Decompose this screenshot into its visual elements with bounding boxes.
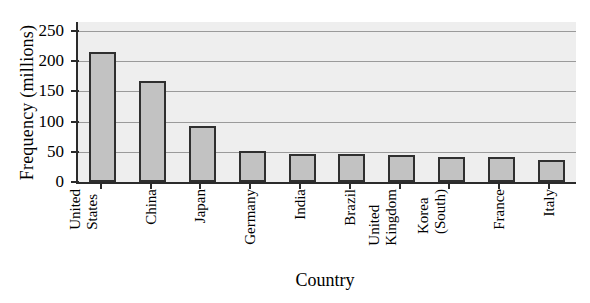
x-category-label-line: Japan	[193, 189, 208, 223]
x-category-label: India	[293, 189, 308, 220]
x-category-label: UnitedStates	[67, 189, 101, 230]
bar	[388, 155, 415, 182]
x-label-slot: Germany	[225, 189, 275, 267]
x-category-label: Germany	[243, 189, 258, 245]
bar	[538, 160, 565, 182]
bar-slot	[178, 22, 228, 182]
x-category-label-line: France	[492, 189, 507, 230]
y-tick-label: 100	[22, 113, 64, 130]
y-tick-label: 50	[22, 143, 64, 160]
y-axis-tick-labels: 050100150200250	[20, 0, 64, 303]
bar-slot	[377, 22, 427, 182]
x-label-slot: India	[275, 189, 325, 267]
bar-slot	[277, 22, 327, 182]
y-tick-label: 150	[22, 82, 64, 99]
x-label-slot: France	[474, 189, 524, 267]
bar	[89, 52, 116, 182]
y-tick-label: 250	[22, 22, 64, 39]
bar-slot	[327, 22, 377, 182]
x-category-label: Korea(South)	[415, 189, 449, 234]
x-category-label-line: United	[366, 189, 383, 246]
x-label-slot: Japan	[176, 189, 226, 267]
x-category-label: UnitedKingdom	[366, 189, 400, 246]
bar	[438, 157, 465, 182]
x-axis-title: Country	[76, 270, 574, 291]
plot-area	[76, 22, 576, 184]
x-category-label-line: Germany	[243, 189, 258, 245]
x-label-slot: UnitedStates	[76, 189, 126, 267]
x-category-label-line: Kingdom	[383, 189, 400, 246]
x-category-label-line: Italy	[542, 189, 557, 217]
x-category-label-line: United	[67, 189, 84, 230]
bar-chart: Frequency (millions) 050100150200250 Uni…	[0, 0, 590, 303]
x-label-slot: Korea(South)	[425, 189, 475, 267]
x-axis-category-labels: UnitedStatesChinaJapanGermanyIndiaBrazil…	[76, 189, 574, 267]
y-tick-label: 0	[22, 173, 64, 190]
x-category-label: France	[492, 189, 507, 230]
x-category-label-line: Brazil	[342, 189, 357, 226]
x-category-label-line: India	[293, 189, 308, 220]
y-tick-label: 200	[22, 52, 64, 69]
x-label-slot: Italy	[524, 189, 574, 267]
bar-slot	[78, 22, 128, 182]
x-category-label: Italy	[542, 189, 557, 217]
x-category-label-line: (South)	[432, 189, 449, 234]
x-category-label-line: China	[143, 189, 158, 225]
bar-series	[78, 22, 576, 182]
x-category-label-line: States	[84, 189, 101, 230]
bar	[239, 151, 266, 182]
bar	[289, 154, 316, 182]
x-category-label: Brazil	[342, 189, 357, 226]
x-category-label-line: Korea	[415, 189, 432, 234]
bar-slot	[526, 22, 576, 182]
bar-slot	[227, 22, 277, 182]
bar	[338, 154, 365, 182]
x-label-slot: China	[126, 189, 176, 267]
bar-slot	[476, 22, 526, 182]
x-category-label: Japan	[193, 189, 208, 223]
bar-slot	[427, 22, 477, 182]
bar	[189, 126, 216, 182]
x-category-label: China	[143, 189, 158, 225]
bar-slot	[128, 22, 178, 182]
bar	[139, 81, 166, 182]
bar	[488, 157, 515, 182]
